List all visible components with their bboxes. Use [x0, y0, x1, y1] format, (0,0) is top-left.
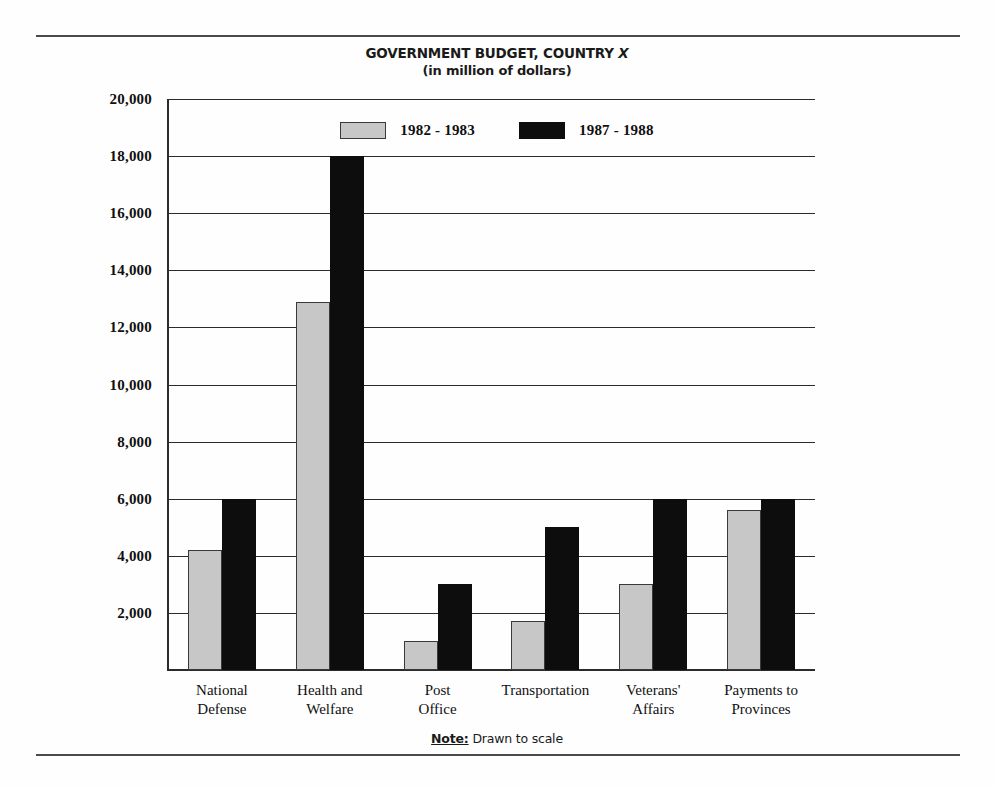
bar: [619, 584, 653, 670]
x-axis-label-line: Provinces: [686, 700, 836, 719]
bar: [296, 302, 330, 670]
gridline-10000: [168, 385, 815, 386]
title-block: GOVERNMENT BUDGET, COUNTRY X (in million…: [0, 45, 994, 79]
bar: [545, 527, 579, 670]
gridline-4000: [168, 556, 815, 557]
bottom-divider-rule: [36, 754, 960, 756]
bar: [222, 499, 256, 670]
bar: [188, 550, 222, 670]
y-tick-label-16000: 16,000: [72, 206, 152, 221]
y-tick-label-6000: 6,000: [72, 492, 152, 507]
x-axis-label-line: Payments to: [686, 681, 836, 700]
bar: [727, 510, 761, 670]
bar-group: [296, 99, 364, 670]
y-tick-label-10000: 10,000: [72, 378, 152, 393]
x-axis-label: Payments toProvinces: [686, 681, 836, 719]
bar: [330, 156, 364, 670]
gridline-8000: [168, 442, 815, 443]
x-axis-line: [167, 669, 815, 671]
figure-page: GOVERNMENT BUDGET, COUNTRY X (in million…: [0, 0, 994, 787]
gridline-18000: [168, 156, 815, 157]
gridline-2000: [168, 613, 815, 614]
y-tick-label-8000: 8,000: [72, 435, 152, 450]
bar-group: [511, 99, 579, 670]
chart-title-text: GOVERNMENT BUDGET, COUNTRY: [365, 45, 618, 61]
gridline-16000: [168, 213, 815, 214]
gridline-20000: [168, 99, 815, 100]
y-tick-label-12000: 12,000: [72, 320, 152, 335]
x-axis-label-line: Office: [363, 700, 513, 719]
y-tick-label-18000: 18,000: [72, 149, 152, 164]
bar: [653, 499, 687, 670]
bar-group: [727, 99, 795, 670]
gridline-12000: [168, 327, 815, 328]
plot-area: [168, 99, 815, 670]
bar-group: [404, 99, 472, 670]
y-tick-label-14000: 14,000: [72, 263, 152, 278]
note-key: Note:: [431, 731, 469, 746]
y-axis-line: [167, 99, 169, 671]
chart-title: GOVERNMENT BUDGET, COUNTRY X: [0, 45, 994, 62]
bar-group: [619, 99, 687, 670]
figure-note: Note: Drawn to scale: [0, 731, 994, 746]
note-text: Drawn to scale: [469, 731, 563, 746]
bar: [404, 641, 438, 670]
y-tick-label-4000: 4,000: [72, 549, 152, 564]
y-tick-label-2000: 2,000: [72, 606, 152, 621]
gridline-14000: [168, 270, 815, 271]
chart-title-variable: X: [618, 45, 628, 61]
chart-subtitle: (in million of dollars): [0, 62, 994, 79]
gridline-6000: [168, 499, 815, 500]
top-divider-rule: [36, 35, 960, 37]
bar: [438, 584, 472, 670]
bar-group: [188, 99, 256, 670]
bar: [761, 499, 795, 670]
y-tick-label-20000: 20,000: [72, 92, 152, 107]
bar: [511, 621, 545, 670]
